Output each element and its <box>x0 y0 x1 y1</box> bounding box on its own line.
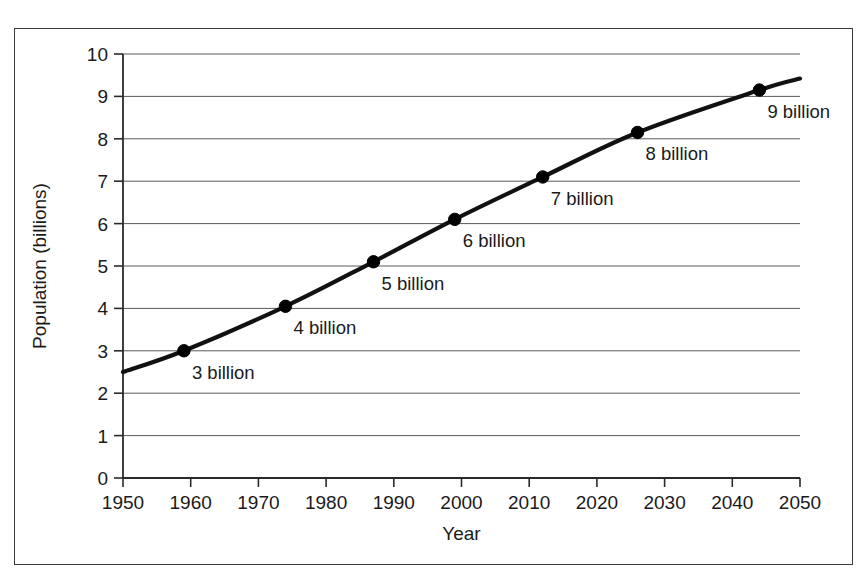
x-tick-label-2020: 2020 <box>576 492 618 513</box>
annotation-6-billion: 6 billion <box>463 230 526 251</box>
x-tick-label-2010: 2010 <box>508 492 550 513</box>
data-point-5-billion <box>367 256 379 268</box>
annotation-5-billion: 5 billion <box>381 273 444 294</box>
data-point-3-billion <box>178 345 190 357</box>
annotation-8-billion: 8 billion <box>646 143 709 164</box>
y-tick-label-5: 5 <box>97 256 108 277</box>
y-tick-label-0: 0 <box>97 468 108 489</box>
x-tick-label-2040: 2040 <box>711 492 753 513</box>
x-tick-label-2050: 2050 <box>779 492 821 513</box>
figure-plate: 012345678910 195019601970198019902000201… <box>0 0 867 586</box>
population-growth-line-chart: 012345678910 195019601970198019902000201… <box>0 0 867 586</box>
y-tick-label-1: 1 <box>97 426 108 447</box>
x-tick-label-1960: 1960 <box>170 492 212 513</box>
x-tick-label-1950: 1950 <box>102 492 144 513</box>
data-point-6-billion <box>449 213 461 225</box>
population-curve <box>123 79 800 372</box>
y-tick-label-3: 3 <box>97 341 108 362</box>
x-axis-ticks <box>123 478 800 487</box>
y-tick-label-7: 7 <box>97 171 108 192</box>
annotation-7-billion: 7 billion <box>551 188 614 209</box>
data-point-8-billion <box>631 126 643 138</box>
x-tick-label-2000: 2000 <box>440 492 482 513</box>
x-tick-label-2030: 2030 <box>643 492 685 513</box>
x-axis-title: Year <box>442 523 481 544</box>
x-tick-label-1970: 1970 <box>237 492 279 513</box>
y-tick-label-2: 2 <box>97 383 108 404</box>
annotation-9-billion: 9 billion <box>767 101 830 122</box>
data-point-7-billion <box>537 171 549 183</box>
y-axis-tick-labels: 012345678910 <box>87 44 109 489</box>
data-point-annotations: 3 billion4 billion5 billion6 billion7 bi… <box>192 101 830 383</box>
y-tick-label-10: 10 <box>87 44 108 65</box>
y-tick-label-4: 4 <box>97 298 108 319</box>
x-tick-label-1990: 1990 <box>373 492 415 513</box>
y-tick-label-6: 6 <box>97 214 108 235</box>
annotation-3-billion: 3 billion <box>192 362 255 383</box>
y-tick-label-9: 9 <box>97 86 108 107</box>
y-axis-title: Population (billions) <box>29 183 50 349</box>
data-point-4-billion <box>279 300 291 312</box>
annotation-4-billion: 4 billion <box>293 317 356 338</box>
x-axis-tick-labels: 1950196019701980199020002010202020302040… <box>102 492 821 513</box>
data-point-9-billion <box>753 84 765 96</box>
y-axis-ticks <box>114 54 123 478</box>
x-tick-label-1980: 1980 <box>305 492 347 513</box>
y-tick-label-8: 8 <box>97 129 108 150</box>
